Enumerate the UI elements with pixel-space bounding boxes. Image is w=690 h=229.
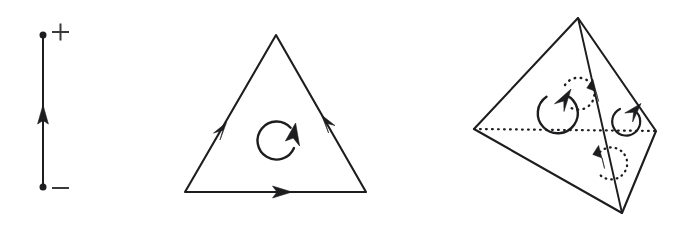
triangle-edge-arrowhead-right <box>322 115 335 133</box>
panel-1-simplex <box>38 24 69 191</box>
tetrahedron-silhouette <box>474 18 656 213</box>
panel-3-simplex <box>474 18 656 213</box>
vertex-dot-plus <box>40 32 47 39</box>
front-edge-arrowhead-lower <box>593 146 605 169</box>
triangle-outline <box>185 35 366 192</box>
vertex-dot-minus <box>40 184 47 191</box>
rotation-arc-clockwise <box>258 122 294 160</box>
simplex-orientation-diagram <box>0 0 690 229</box>
tetrahedron-front-edge <box>578 18 622 213</box>
panel-2-simplex <box>185 35 366 198</box>
rotation-arc-right-arrowhead <box>625 104 641 123</box>
rotation-arc-front-left-arrowhead <box>555 89 572 112</box>
figure-canvas: Oriented simplices: 1-simplex, 2-simplex… <box>0 0 690 229</box>
tetrahedron-hidden-edge <box>474 129 656 131</box>
plus-sign-label <box>52 24 69 41</box>
